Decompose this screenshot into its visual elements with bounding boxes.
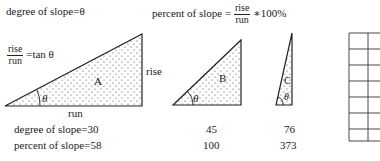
triangle-b-label: B [219, 73, 226, 84]
degree-value-a: 30 [87, 123, 98, 135]
degree-value-c: 76 [284, 124, 295, 135]
triangle-a-label: A [94, 76, 102, 87]
degree-value-b: 45 [206, 124, 217, 135]
rise-label: rise [146, 66, 162, 77]
run-label: run [68, 108, 83, 119]
percent-value-a: 58 [90, 139, 101, 151]
degree-of-slope-value-a: degree of slope=30 [14, 124, 98, 135]
percent-prefix: percent of slope= [14, 139, 90, 151]
reference-grid [349, 33, 380, 141]
percent-value-b: 100 [203, 140, 220, 151]
triangle-c-label: C [284, 76, 291, 86]
triangle-a-angle: θ [42, 93, 47, 104]
slope-diagram [0, 0, 380, 161]
triangle-b [173, 40, 241, 105]
triangle-a [5, 34, 142, 106]
triangle-c-angle: θ [284, 92, 289, 102]
degree-prefix: degree of slope= [14, 123, 87, 135]
percent-of-slope-value-a: percent of slope=58 [14, 140, 101, 151]
triangle-b-angle: θ [193, 93, 198, 104]
percent-value-c: 373 [280, 140, 297, 151]
